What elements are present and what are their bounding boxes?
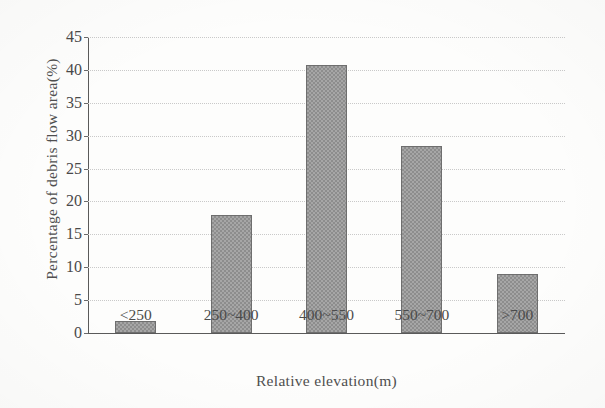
- y-tick-mark: [84, 103, 88, 104]
- y-tick-mark: [84, 333, 88, 334]
- x-axis-title: Relative elevation(m): [88, 372, 565, 390]
- y-tick-mark: [84, 300, 88, 301]
- y-tick-label: 0: [50, 324, 82, 342]
- y-tick-label: 45: [50, 28, 82, 46]
- y-tick-mark: [84, 169, 88, 170]
- bar: [401, 146, 442, 333]
- y-tick-mark: [84, 234, 88, 235]
- y-tick-label: 25: [50, 160, 82, 178]
- bar: [306, 65, 347, 333]
- y-axis-line: [88, 37, 89, 334]
- y-tick-mark: [84, 70, 88, 71]
- figure-canvas: Percentage of debris flow area(%) 051015…: [0, 0, 605, 408]
- y-tick-label: 40: [50, 61, 82, 79]
- y-tick-mark: [84, 37, 88, 38]
- y-tick-mark: [84, 136, 88, 137]
- x-tick-label: >700: [457, 306, 577, 324]
- y-tick-label: 10: [50, 258, 82, 276]
- y-tick-mark: [84, 267, 88, 268]
- bar: [497, 274, 538, 333]
- plot-area: [88, 37, 565, 334]
- gridline: [88, 37, 565, 38]
- y-tick-label: 35: [50, 94, 82, 112]
- y-tick-label: 15: [50, 225, 82, 243]
- y-tick-label: 30: [50, 127, 82, 145]
- x-axis-line: [88, 333, 565, 334]
- y-tick-mark: [84, 201, 88, 202]
- y-tick-label: 20: [50, 192, 82, 210]
